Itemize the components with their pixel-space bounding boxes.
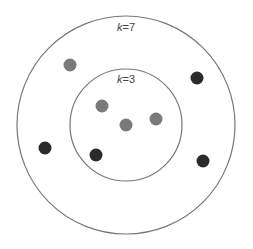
data-point-gray bbox=[64, 59, 77, 72]
knn-diagram: k=7k=3 bbox=[0, 0, 253, 249]
data-point-gray bbox=[150, 113, 163, 126]
data-point-gray bbox=[96, 100, 109, 113]
query-point bbox=[120, 119, 133, 132]
data-point-dark bbox=[191, 72, 204, 85]
data-point-dark bbox=[197, 155, 210, 168]
knn-diagram-canvas: k=7k=3 bbox=[0, 0, 253, 249]
data-point-dark bbox=[90, 149, 103, 162]
inner-k-label: k=3 bbox=[117, 73, 135, 85]
data-point-dark bbox=[39, 142, 52, 155]
outer-k-label: k=7 bbox=[117, 21, 135, 33]
